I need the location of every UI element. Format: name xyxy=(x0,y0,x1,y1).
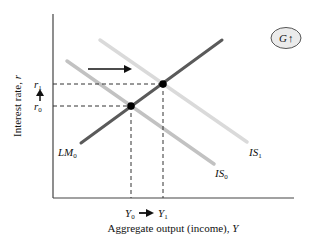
government-spending-badge: G ↑ xyxy=(271,28,301,49)
is0-label: IS0 xyxy=(214,167,228,181)
r0-label: r0 xyxy=(34,100,42,114)
is-lm-diagram: r1 r0 Y0 Y1 LM0 IS0 IS1 Interest rate, r… xyxy=(0,0,324,238)
is1-curve xyxy=(100,40,247,142)
y1-label: Y1 xyxy=(158,207,168,221)
lm0-label: LM0 xyxy=(57,146,77,160)
y-right-arrow-icon xyxy=(139,209,154,217)
up-arrow-icon: ↑ xyxy=(288,32,294,44)
x-axis-label: Aggregate output (income), Y xyxy=(108,222,241,235)
svg-text:G: G xyxy=(279,32,287,44)
y-axis-label: Interest rate, r xyxy=(11,74,23,137)
is1-label: IS1 xyxy=(248,146,262,160)
lm0-curve xyxy=(81,40,222,143)
y0-label: Y0 xyxy=(125,207,135,221)
equilibrium-point-2 xyxy=(159,80,167,88)
equilibrium-point-1 xyxy=(127,102,135,110)
is0-curve xyxy=(67,61,214,164)
r1-label: r1 xyxy=(34,78,42,92)
